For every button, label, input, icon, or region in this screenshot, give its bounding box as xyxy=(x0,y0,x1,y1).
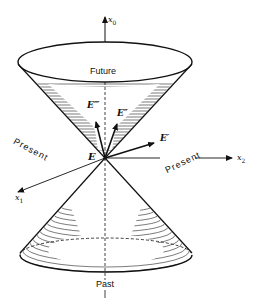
vector-e-triple-prime-label: E‴ xyxy=(87,101,100,110)
x0-axis-label: x0 xyxy=(108,16,116,26)
vector-e-prime-label: E′ xyxy=(160,134,169,143)
light-cone-diagram: x0 x2 x1 Future Past Present Present E E… xyxy=(0,0,257,304)
x1-axis xyxy=(18,158,105,192)
future-label: Future xyxy=(90,67,116,76)
past-label: Past xyxy=(96,280,114,289)
vector-e-double-prime-label: E″ xyxy=(117,109,128,118)
x1-axis-label: x1 xyxy=(15,194,23,204)
x2-axis-label: x2 xyxy=(237,154,245,164)
event-point xyxy=(103,156,106,159)
past-cone-hatching xyxy=(20,205,192,274)
future-cone-hatching xyxy=(0,84,257,150)
event-label: E xyxy=(88,152,96,162)
